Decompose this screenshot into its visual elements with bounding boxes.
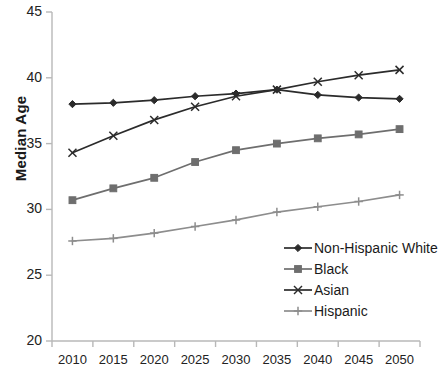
x-axis-tick-2050: 2050: [376, 352, 424, 367]
legend-marker-plus-icon: [283, 304, 313, 318]
y-axis-tick-20: 20: [8, 332, 42, 348]
legend-item-hispanic[interactable]: Hispanic: [283, 301, 438, 321]
legend-label: Non-Hispanic White: [313, 240, 438, 256]
legend-label: Asian: [313, 282, 349, 298]
y-axis-tick-40: 40: [8, 69, 42, 85]
y-axis-tick-30: 30: [8, 200, 42, 216]
series-black: [69, 126, 403, 204]
legend-marker-diamond-icon: [283, 241, 313, 255]
series-hispanic: [68, 191, 404, 245]
y-axis-tick-25: 25: [8, 266, 42, 282]
chart-legend: Non-Hispanic WhiteBlackAsianHispanic: [283, 238, 438, 322]
legend-item-asian[interactable]: Asian: [283, 280, 438, 300]
legend-item-non-hispanic-white[interactable]: Non-Hispanic White: [283, 238, 438, 258]
y-axis-tick-45: 45: [8, 3, 42, 19]
legend-marker-square-icon: [283, 262, 313, 276]
legend-marker-x-icon: [283, 283, 313, 297]
legend-label: Black: [313, 261, 348, 277]
legend-item-black[interactable]: Black: [283, 259, 438, 279]
series-asian: [68, 66, 403, 157]
y-axis-tick-35: 35: [8, 135, 42, 151]
legend-label: Hispanic: [313, 303, 368, 319]
